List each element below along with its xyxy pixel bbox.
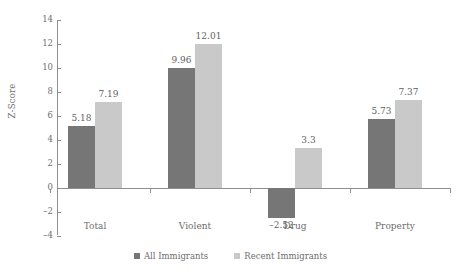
x-axis-line	[57, 188, 451, 189]
y-axis-title: Z-Score	[7, 71, 17, 131]
x-axis-category-label: Property	[345, 221, 445, 231]
bar	[368, 119, 395, 188]
y-axis-tick-label: 2	[20, 159, 53, 168]
bar-value-label: 7.19	[86, 90, 132, 99]
bar	[95, 102, 122, 188]
legend-item: All Immigrants	[134, 251, 208, 261]
bar-value-label: 7.37	[386, 88, 432, 97]
bar-chart: Z-Score 14121086420–2–4 5.187.199.9612.0…	[0, 0, 461, 273]
y-axis-tick-label: –4	[20, 231, 53, 240]
legend-label: All Immigrants	[144, 251, 208, 261]
bar	[295, 148, 322, 188]
bar	[268, 188, 295, 218]
y-axis-tick-label: 12	[20, 39, 53, 48]
x-axis-tick	[250, 189, 251, 193]
y-axis-tick-label: 14	[20, 15, 53, 24]
y-axis-tick-label: 8	[20, 87, 53, 96]
x-axis-tick	[350, 189, 351, 193]
y-axis-tick-label: 6	[20, 111, 53, 120]
bar	[195, 44, 222, 188]
x-axis-tick	[50, 189, 51, 193]
y-axis-tick-label: 4	[20, 135, 53, 144]
bar	[395, 100, 422, 188]
y-axis-tick-label: –2	[20, 207, 53, 216]
legend-swatch-icon	[134, 253, 140, 259]
legend-item: Recent Immigrants	[234, 251, 327, 261]
y-axis-tick	[57, 20, 61, 21]
bar-value-label: 12.01	[186, 32, 232, 41]
legend-swatch-icon	[234, 253, 240, 259]
x-axis-tick	[450, 189, 451, 193]
y-axis-tick-label: 0	[20, 183, 53, 192]
x-axis-category-label: Total	[45, 221, 145, 231]
chart-legend: All ImmigrantsRecent Immigrants	[0, 251, 461, 261]
x-axis-tick	[150, 189, 151, 193]
y-axis-tick	[57, 164, 61, 165]
y-axis-line	[57, 20, 58, 235]
bar	[68, 126, 95, 188]
y-axis-tick	[57, 68, 61, 69]
x-axis-category-label: Drug	[245, 221, 345, 231]
bar-value-label: 3.3	[286, 136, 332, 145]
y-axis-tick	[57, 140, 61, 141]
y-axis-tick	[57, 44, 61, 45]
y-axis-tick	[57, 236, 61, 237]
y-axis-tick	[57, 212, 61, 213]
y-axis-tick	[57, 92, 61, 93]
legend-label: Recent Immigrants	[244, 251, 327, 261]
bar	[168, 68, 195, 188]
x-axis-category-label: Violent	[145, 221, 245, 231]
y-axis-tick-label: 10	[20, 63, 53, 72]
